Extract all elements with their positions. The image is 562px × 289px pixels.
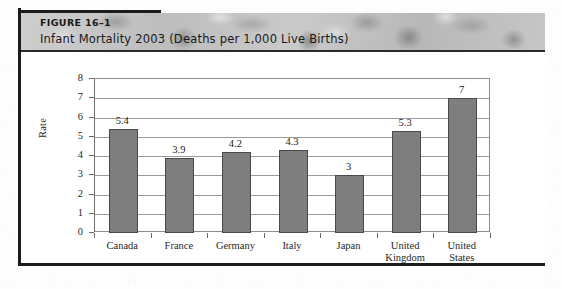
bar-value-label: 3.9 — [159, 144, 199, 155]
figure-banner: FIGURE 16–1 Infant Mortality 2003 (Death… — [21, 13, 545, 52]
figure-number: FIGURE 16–1 — [40, 16, 349, 30]
gridline — [95, 118, 489, 119]
bar — [448, 98, 477, 233]
y-tick-label: 4 — [61, 150, 83, 160]
x-tick-mark — [207, 233, 208, 238]
y-tick-label: 8 — [61, 73, 83, 83]
x-tick-mark — [377, 233, 378, 238]
bar-value-label: 5.4 — [102, 115, 142, 126]
bar-value-label: 4.3 — [272, 136, 312, 147]
bar — [165, 158, 194, 233]
bar — [335, 175, 364, 233]
bar — [222, 152, 251, 233]
bar-value-label: 3 — [329, 161, 369, 172]
y-tick-label: 2 — [61, 189, 83, 199]
x-tick-mark — [320, 233, 321, 238]
y-tick-label: 7 — [61, 92, 83, 102]
y-tick-label: 0 — [61, 227, 83, 237]
bar — [392, 131, 421, 233]
bar — [109, 129, 138, 233]
x-tick-mark — [433, 233, 434, 238]
chart-canvas: Rate 012345678 5.43.94.24.335.37 CanadaF… — [21, 52, 545, 263]
banner-text-block: FIGURE 16–1 Infant Mortality 2003 (Death… — [40, 16, 349, 48]
bar — [279, 150, 308, 233]
plot-area — [94, 78, 490, 232]
x-tick-mark — [94, 233, 95, 238]
y-tick-label: 6 — [61, 112, 83, 122]
figure-title: Infant Mortality 2003 (Deaths per 1,000 … — [40, 31, 349, 48]
x-tick-mark — [490, 233, 491, 238]
bar-value-label: 5.3 — [385, 117, 425, 128]
bar-value-label: 4.2 — [215, 138, 255, 149]
x-tick-mark — [264, 233, 265, 238]
bar-value-label: 7 — [442, 84, 482, 95]
y-axis-title: Rate — [37, 118, 48, 138]
y-tick-label: 3 — [61, 169, 83, 179]
gridline — [95, 98, 489, 99]
y-tick-label: 5 — [61, 131, 83, 141]
x-tick-mark — [151, 233, 152, 238]
x-axis-label: United States — [427, 240, 497, 264]
y-tick-label: 1 — [61, 208, 83, 218]
